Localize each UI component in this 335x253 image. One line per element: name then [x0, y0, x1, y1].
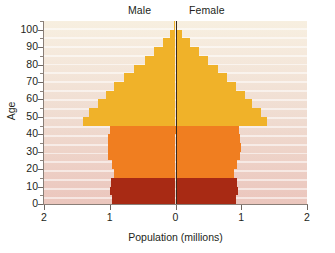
y-tick-minor-25 [40, 160, 43, 161]
x-tick-0 [44, 205, 45, 210]
bar-female-85-89 [176, 47, 199, 56]
y-tick-minor-45 [40, 126, 43, 127]
x-tick-4 [307, 205, 308, 210]
plot-area [44, 21, 307, 204]
y-tick-90 [38, 47, 43, 48]
bar-male-25-29 [108, 152, 175, 161]
y-tick-minor-75 [40, 73, 43, 74]
y-tick-0 [38, 204, 43, 205]
x-tick-label-0: 2 [32, 211, 56, 223]
bar-male-10-14 [111, 178, 175, 187]
y-tick-label-90: 90 [8, 40, 38, 52]
bar-female-20-24 [176, 160, 237, 169]
y-axis-line [43, 21, 44, 205]
y-tick-label-100: 100 [8, 23, 38, 35]
y-tick-70 [38, 82, 43, 83]
x-tick-label-4: 2 [295, 211, 319, 223]
bar-male-5-9 [110, 187, 175, 196]
bar-male-40-44 [110, 126, 176, 135]
bar-female-50-54 [176, 108, 261, 117]
y-tick-minor-95 [40, 38, 43, 39]
x-tick-2 [176, 205, 177, 210]
zero-axis-line [176, 21, 177, 204]
bar-female-45-49 [176, 117, 267, 126]
y-tick-label-0: 0 [8, 197, 38, 209]
bar-male-35-39 [108, 134, 175, 143]
bar-female-10-14 [176, 178, 238, 187]
x-tick-label-1: 1 [98, 211, 122, 223]
bar-male-30-34 [108, 143, 176, 152]
bar-male-70-74 [124, 73, 175, 82]
bar-male-75-79 [134, 65, 175, 74]
y-tick-60 [38, 99, 43, 100]
y-tick-80 [38, 65, 43, 66]
y-tick-label-20: 20 [8, 162, 38, 174]
y-tick-minor-35 [40, 143, 43, 144]
y-tick-label-10: 10 [8, 180, 38, 192]
bar-female-75-79 [176, 65, 218, 74]
y-tick-label-80: 80 [8, 58, 38, 70]
bar-female-55-59 [176, 99, 253, 108]
y-tick-10 [38, 187, 43, 188]
bar-male-65-69 [114, 82, 175, 91]
y-tick-minor-15 [40, 178, 43, 179]
bar-female-35-39 [176, 134, 240, 143]
y-tick-minor-105 [40, 21, 43, 22]
y-tick-minor-5 [40, 195, 43, 196]
bar-female-80-84 [176, 56, 209, 65]
bar-male-90-94 [163, 38, 175, 47]
x-tick-label-3: 1 [229, 211, 253, 223]
female-label: Female [189, 4, 225, 16]
bar-male-20-24 [112, 160, 176, 169]
y-tick-100 [38, 30, 43, 31]
y-tick-minor-55 [40, 108, 43, 109]
male-label: Male [128, 4, 151, 16]
x-axis-title: Population (millions) [44, 231, 307, 243]
bar-male-15-19 [114, 169, 175, 178]
bar-male-55-59 [98, 99, 176, 108]
y-tick-minor-85 [40, 56, 43, 57]
bar-male-60-64 [106, 91, 176, 100]
bar-female-30-34 [176, 143, 241, 152]
y-tick-label-30: 30 [8, 145, 38, 157]
x-tick-1 [110, 205, 111, 210]
x-tick-3 [241, 205, 242, 210]
bar-male-45-49 [83, 117, 175, 126]
bar-female-65-69 [176, 82, 236, 91]
y-tick-minor-65 [40, 91, 43, 92]
bar-male-0-4 [112, 195, 175, 204]
bar-female-25-29 [176, 152, 240, 161]
bar-female-0-4 [176, 195, 236, 204]
bar-male-50-54 [89, 108, 175, 117]
y-axis-title: Age [5, 91, 17, 131]
y-tick-30 [38, 152, 43, 153]
bar-female-90-94 [176, 38, 190, 47]
x-tick-label-2: 0 [164, 211, 188, 223]
y-tick-50 [38, 117, 43, 118]
bar-female-40-44 [176, 126, 240, 135]
bar-male-85-89 [154, 47, 175, 56]
bar-female-5-9 [176, 187, 238, 196]
gender-legend: Male Female [44, 4, 307, 20]
y-tick-label-70: 70 [8, 75, 38, 87]
bar-male-80-84 [145, 56, 176, 65]
y-tick-40 [38, 134, 43, 135]
bar-female-70-74 [176, 73, 227, 82]
population-pyramid-figure: Male Female 0102030405060708090100 21012… [0, 0, 335, 253]
bar-female-60-64 [176, 91, 245, 100]
bar-female-15-19 [176, 169, 235, 178]
y-tick-20 [38, 169, 43, 170]
